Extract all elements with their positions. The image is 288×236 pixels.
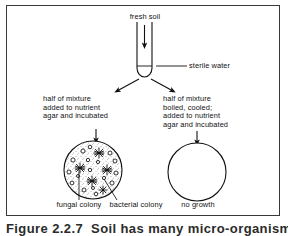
right-branch-label: half of mixture boiled, cooled; added to…: [163, 95, 259, 129]
figure-caption: Figure 2.2.7 Soil has many micro-organis…: [6, 221, 288, 236]
split-arrow-right: [151, 79, 173, 91]
bacterial-colony-label: bacterial colony: [96, 201, 176, 210]
no-growth-label: no growth: [170, 201, 226, 210]
left-branch-label: half of mixture added to nutrient agar a…: [43, 95, 133, 121]
sterile-water-label: sterile water: [189, 62, 269, 71]
agar-plate-no-growth: [168, 143, 226, 201]
figure-root: fresh soil sterile water half of mixture…: [0, 0, 288, 236]
fresh-soil-label: fresh soil: [110, 13, 180, 22]
agar-plate-with-growth: [64, 141, 122, 200]
split-arrow-left: [117, 79, 139, 91]
